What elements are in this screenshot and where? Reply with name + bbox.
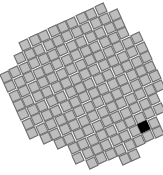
- tile-board: [0, 0, 163, 175]
